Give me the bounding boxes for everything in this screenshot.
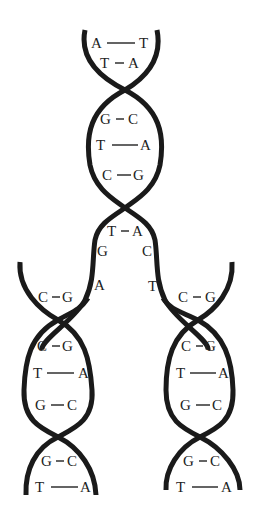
base: T	[35, 479, 44, 495]
base: C	[67, 397, 77, 413]
unpaired-bases: G A C T	[94, 243, 157, 294]
base: G	[183, 453, 194, 469]
base: G	[205, 338, 216, 354]
base: A	[140, 137, 151, 153]
base: G	[205, 289, 216, 305]
base: G	[133, 167, 144, 183]
base: T	[176, 479, 185, 495]
base: C	[128, 111, 138, 127]
base: G	[41, 453, 52, 469]
dna-replication-diagram: A T T A G C T A C G T A G A C T C G C G …	[0, 0, 254, 523]
base: G	[97, 243, 108, 259]
base: C	[67, 453, 77, 469]
base: C	[212, 397, 222, 413]
base: T	[148, 278, 157, 294]
base: C	[178, 289, 188, 305]
base: C	[210, 453, 220, 469]
base: A	[91, 35, 102, 51]
base: A	[132, 223, 143, 239]
base: G	[100, 111, 111, 127]
base: A	[94, 277, 105, 293]
base: T	[107, 223, 116, 239]
base: C	[38, 289, 48, 305]
base: G	[35, 397, 46, 413]
base: A	[218, 365, 229, 381]
base: T	[139, 35, 148, 51]
base: A	[78, 365, 89, 381]
base: T	[96, 137, 105, 153]
base: G	[62, 289, 73, 305]
base: T	[33, 365, 42, 381]
base: A	[128, 55, 139, 71]
base: A	[80, 479, 91, 495]
base: C	[142, 243, 152, 259]
base: G	[62, 338, 73, 354]
base: G	[180, 397, 191, 413]
base: C	[37, 338, 47, 354]
right-daughter-old-strand	[163, 298, 233, 490]
base: T	[100, 55, 109, 71]
base: C	[181, 338, 191, 354]
base: T	[176, 365, 185, 381]
base: A	[221, 479, 232, 495]
base: C	[102, 167, 112, 183]
